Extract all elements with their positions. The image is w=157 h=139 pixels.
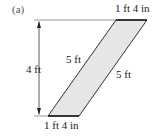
height-label: 4 ft: [26, 64, 41, 75]
parallelogram-shape: [48, 20, 147, 116]
arrow-up-icon: [37, 21, 41, 28]
right-side-label: 5 ft: [116, 69, 131, 80]
left-side-label: 5 ft: [66, 54, 81, 65]
arrow-down-icon: [37, 108, 41, 115]
bottom-width-label: 1 ft 4 in: [44, 120, 79, 131]
top-width-label: 1 ft 4 in: [115, 3, 150, 14]
part-label: (a): [12, 4, 24, 15]
